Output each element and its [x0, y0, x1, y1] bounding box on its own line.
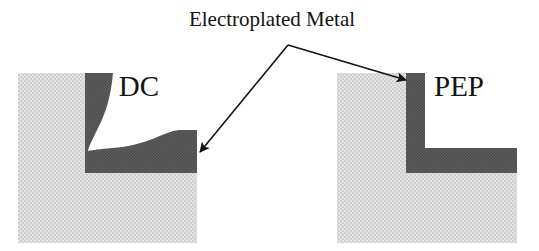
figure-title: Electroplated Metal — [189, 7, 355, 31]
arrow-to-dc — [200, 45, 288, 152]
panel-dc: DC — [18, 70, 197, 243]
panel-pep: PEP — [337, 70, 517, 243]
panel-label-dc: DC — [119, 70, 159, 102]
panel-label-pep: PEP — [434, 70, 484, 102]
diagram-canvas: DC PEP Electroplated Metal — [0, 0, 539, 251]
electroplated-metal-figure: DC PEP Electroplated Metal — [0, 0, 539, 251]
